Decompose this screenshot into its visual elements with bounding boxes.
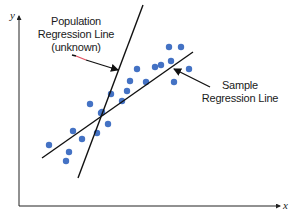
data-point [87,101,93,107]
sample-regression-line [42,52,193,158]
data-point [79,136,85,142]
data-point [63,158,69,164]
population-label-line-1: Population [36,15,116,28]
data-point [166,44,172,50]
data-point [134,66,140,72]
data-point [168,58,174,64]
data-point [186,66,192,72]
sample-label-line-1: Sample [200,79,280,92]
y-axis-label: y [10,9,15,21]
sample-regression-label: Sample Regression Line [200,79,280,105]
population-label-line-3: (unknown) [36,41,116,54]
population-annotation-arrow [72,55,118,70]
population-regression-label: Population Regression Line (unknown) [36,15,116,54]
data-point [158,62,164,68]
data-point [70,128,76,134]
data-point [152,64,158,70]
data-point [66,149,72,155]
data-point [124,88,130,94]
data-point [127,78,133,84]
sample-label-line-2: Regression Line [200,92,280,105]
data-point [171,79,177,85]
population-label-line-2: Regression Line [36,28,116,41]
x-axis-label: x [283,199,288,211]
data-point [46,142,52,148]
data-point [105,121,111,127]
data-point [178,44,184,50]
